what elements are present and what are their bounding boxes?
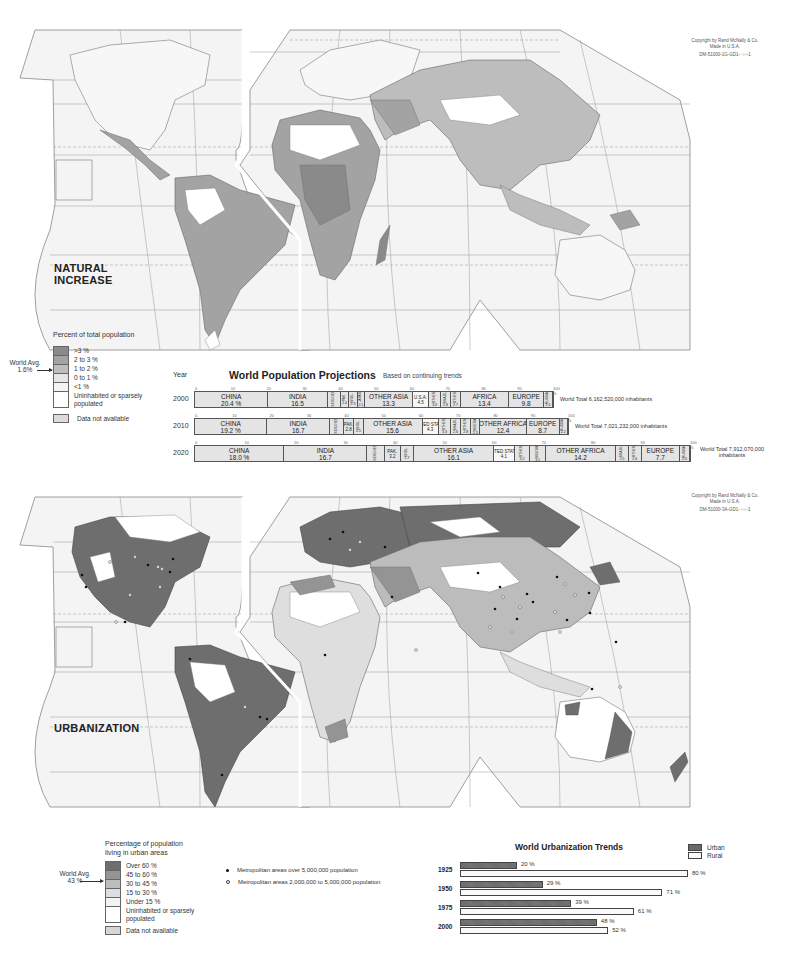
world-total: World Total 6,162,520,000 inhabitants <box>560 396 652 402</box>
segment-value: 3.2 <box>389 454 395 459</box>
rural-value: 71 % <box>666 889 680 895</box>
urban-value: 48 % <box>601 918 615 924</box>
legend-item: Under 15 % <box>105 897 245 906</box>
legend-swatch <box>53 382 69 391</box>
bar-segment: BNGL.2.3 <box>349 392 357 407</box>
segment-value: 20.4 % <box>221 400 241 407</box>
segment-label: OTHER <box>464 419 468 430</box>
segment-value: 2.6 <box>632 457 637 461</box>
urban-value: 20 % <box>521 861 535 867</box>
legend-item-urban: Urban <box>688 843 725 851</box>
urbanization-trends-title: World Urbanization Trends <box>515 842 623 852</box>
bar-segment: INDO-NESIA3.6 <box>330 419 344 434</box>
legend-label: 2 to 3 % <box>74 356 98 364</box>
urbanization-legend: Percentage of population living in urban… <box>105 839 245 935</box>
axis-tick: 0 <box>195 386 197 391</box>
legend-swatch <box>105 926 121 935</box>
natural-increase-map <box>0 0 788 370</box>
axis-tick: 80 <box>481 386 485 391</box>
bar-segment: OTHER ASIA13.3 <box>365 392 413 407</box>
urbanization-title: URBANIZATION <box>54 722 139 734</box>
world-avg-label: World Avg. <box>57 870 93 877</box>
axis-tick: 40 <box>393 440 397 445</box>
legend-label: Uninhabited or sparsely populated <box>74 392 144 408</box>
segment-label: INDIA <box>290 420 307 427</box>
legend-swatch <box>53 355 69 364</box>
bar-segment: EUROPE8.7 <box>527 419 560 434</box>
row-year: 1975 <box>438 904 452 911</box>
rural-bar <box>460 889 662 896</box>
bar-segment: INDIA16.5 <box>268 392 327 407</box>
segment-label: INDIA <box>289 393 306 400</box>
axis-tick: 90 <box>517 386 521 391</box>
legend-swatch <box>105 861 121 870</box>
segment-value: 14.2 <box>574 454 587 461</box>
segment-label: OTHER AFRICA <box>480 420 527 427</box>
bar-segment: NIGERIA3.1 <box>530 446 545 461</box>
segment-label: OTHER ASIA <box>369 393 408 400</box>
legend-items: Over 60 %45 to 60 %30 to 45 %15 to 30 %U… <box>105 861 245 923</box>
segment-value: 2.7 <box>453 403 458 407</box>
urban-value: 39 % <box>575 899 589 905</box>
map-code: DM-51000-1G-GD1- -:-:-1 <box>675 52 775 58</box>
legend-item: Uninhabited or sparsely populated <box>105 906 245 923</box>
bar-segment: CHINA20.4 % <box>195 392 268 407</box>
bar-segment: BRAZIL2.6 <box>451 419 461 434</box>
bar-segment: U.S.A.4.5 <box>413 392 429 407</box>
legend-swatch <box>53 364 69 373</box>
segment-value: 16.7 <box>292 427 305 434</box>
segment-value: 13.3 <box>382 400 395 407</box>
segment-label: BRAZIL <box>620 446 624 457</box>
segment-value: 19.2 % <box>221 427 241 434</box>
row-year: 1950 <box>438 885 452 892</box>
legend-label: Rural <box>707 852 723 859</box>
segment-value: 2.4 <box>546 403 551 407</box>
segment-value: 12.4 <box>497 427 510 434</box>
axis-tick: 20 <box>270 413 274 418</box>
segment-label: CHINA <box>221 393 241 400</box>
legend-title: Percentage of population living in urban… <box>105 839 245 857</box>
segment-value: 2.5 <box>620 457 625 461</box>
legend-swatch <box>105 870 121 879</box>
bar-segment: OTHER3.3 <box>439 419 451 434</box>
legend-label: 1 to 2 % <box>74 365 98 373</box>
bar-segment: PAK.2.8 <box>344 419 355 434</box>
axis-tick: 20 <box>267 386 271 391</box>
bar-segment: PAK.3.2 <box>385 446 401 461</box>
world-avg-arrow-icon <box>80 881 103 882</box>
legend-item: 0 to 1 % <box>53 373 193 382</box>
segment-label: RUSSIA <box>683 446 687 457</box>
segment-value: 2.4 <box>342 401 347 405</box>
segment-value: 2.8 <box>463 430 468 434</box>
legend-swatch <box>53 414 69 423</box>
segment-label: BNGL. <box>357 420 361 430</box>
legend-item: <1 % <box>53 382 193 391</box>
legend-title: Percent of total population <box>53 330 193 339</box>
metro-legend: Metropolitan areas over 5,000,000 popula… <box>226 867 380 885</box>
copyright-urbanization: Copyright by Rand McNally & Co. Made in … <box>675 493 775 513</box>
segment-value: 3.3 <box>432 403 437 407</box>
segment-label: CHINA <box>221 420 241 427</box>
segment-value: 9.8 <box>522 400 531 407</box>
segment-label: JAPAN <box>359 392 363 402</box>
segment-label: BRAZIL <box>444 392 448 403</box>
axis-tick: 70 <box>542 440 546 445</box>
segment-value: 4.5 <box>417 400 423 405</box>
legend-item: Over 60 % <box>105 861 245 870</box>
row-year: 2020 <box>173 449 189 456</box>
row-year: 2010 <box>173 422 189 429</box>
bar-segment: OTHER2.6 <box>629 446 642 461</box>
segment-value: 18.0 % <box>229 454 249 461</box>
bar-segment: BNGL.2.7 <box>401 446 414 461</box>
segment-label: INDO-NESIA <box>335 419 339 434</box>
world-map-urbanization <box>0 487 788 827</box>
segment-value: 7.7 <box>656 454 665 461</box>
legend-label: 45 to 60 % <box>126 871 157 879</box>
bar-segment: RUSSIA2.2 <box>560 419 568 434</box>
segment-label: CHINA <box>229 447 249 454</box>
bar-segment: BRAZIL2.5 <box>616 446 628 461</box>
legend-label: 30 to 45 % <box>126 880 157 888</box>
bar-segment: INDIA16.7 <box>284 446 367 461</box>
segment-label: EUROPE <box>512 393 539 400</box>
axis-tick: 100 % <box>553 386 560 396</box>
